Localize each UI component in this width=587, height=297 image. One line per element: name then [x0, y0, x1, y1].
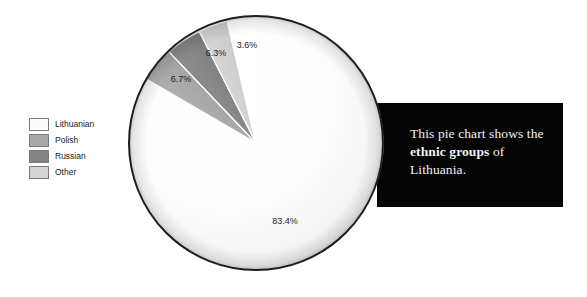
slice-label-russian: 6.3%	[206, 48, 227, 58]
legend-item-lithuanian[interactable]: Lithuanian	[29, 117, 139, 132]
callout-line-2-suffix: of	[489, 144, 504, 159]
legend-swatch-polish	[29, 134, 49, 147]
legend-item-russian[interactable]: Russian	[29, 149, 139, 164]
callout-box: This pie chart shows the ethnic groups o…	[377, 103, 563, 207]
slice-label-polish: 6.7%	[171, 74, 192, 84]
callout-text: This pie chart shows the ethnic groups o…	[410, 125, 556, 179]
pie-slice-other[interactable]	[199, 21, 256, 143]
chart-legend: Lithuanian Polish Russian Other	[29, 117, 139, 181]
legend-item-polish[interactable]: Polish	[29, 133, 139, 148]
legend-swatch-russian	[29, 150, 49, 163]
pie-outline	[129, 16, 383, 270]
legend-label-russian: Russian	[55, 150, 86, 163]
callout-line-2-prefix: the	[527, 126, 544, 141]
callout-emphasis: ethnic groups	[410, 144, 489, 159]
pie-slice-russian[interactable]	[169, 32, 256, 143]
legend-swatch-lithuanian	[29, 118, 49, 131]
legend-label-lithuanian: Lithuanian	[55, 118, 94, 131]
callout-line-1: This pie chart shows	[410, 126, 523, 141]
legend-label-other: Other	[55, 166, 76, 179]
pie-slice-polish[interactable]	[146, 52, 256, 143]
slice-label-lithuanian: 83.4%	[272, 216, 298, 226]
pie-chart-figure: Lithuanian Polish Russian Other This pie…	[0, 0, 587, 297]
pie-slice-lithuanian[interactable]	[129, 16, 383, 270]
legend-label-polish: Polish	[55, 134, 78, 147]
slice-label-other: 3.6%	[237, 40, 258, 50]
callout-line-3: Lithuania.	[410, 162, 466, 177]
legend-swatch-other	[29, 166, 49, 179]
legend-item-other[interactable]: Other	[29, 165, 139, 180]
